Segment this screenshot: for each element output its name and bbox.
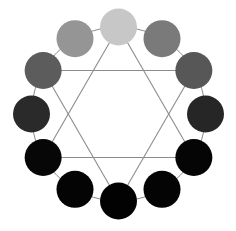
color-swatch-9: [25, 139, 62, 176]
color-swatch-1: [100, 9, 137, 46]
wheel-ring: [32, 27, 206, 201]
color-swatches: [13, 9, 224, 220]
color-wheel-diagram: [0, 0, 236, 231]
color-swatch-7: [100, 183, 137, 220]
color-swatch-2: [144, 20, 181, 57]
color-swatch-4: [187, 96, 224, 133]
color-swatch-3: [175, 52, 212, 89]
color-swatch-8: [57, 171, 94, 208]
color-swatch-10: [13, 96, 50, 133]
color-swatch-11: [25, 52, 62, 89]
color-swatch-5: [175, 139, 212, 176]
color-swatch-12: [57, 20, 94, 57]
color-swatch-6: [144, 171, 181, 208]
